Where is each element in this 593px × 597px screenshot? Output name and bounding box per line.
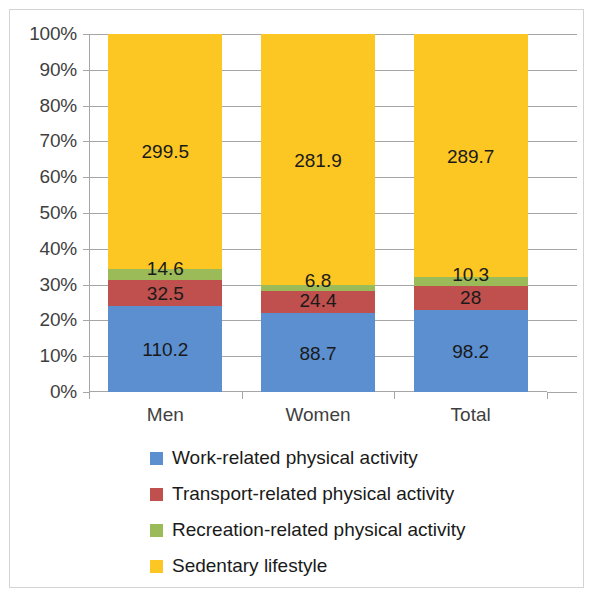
legend-swatch-icon [150, 560, 163, 573]
bar-segment[interactable] [414, 277, 528, 286]
legend-label: Recreation-related physical activity [172, 519, 466, 541]
x-axis-separator [242, 392, 243, 399]
y-axis-label: 40% [40, 238, 77, 260]
plot-wrapper: 100%90%80%70%60%50%40%30%20%10%0%110.232… [10, 10, 585, 430]
y-axis-tick-right [547, 70, 577, 71]
bar-segment[interactable] [108, 306, 222, 392]
y-axis-label: 100% [29, 23, 77, 45]
bar-segment[interactable] [261, 285, 375, 291]
y-axis-tick-right [547, 213, 577, 214]
legend-swatch-icon [150, 452, 163, 465]
bar-segment[interactable] [108, 269, 222, 280]
y-axis-tick [83, 356, 89, 357]
y-axis-label: 70% [40, 130, 77, 152]
bar-men[interactable]: 110.232.514.6299.5 [108, 34, 222, 392]
y-axis-tick [83, 320, 89, 321]
legend-label: Transport-related physical activity [172, 483, 454, 505]
bar-women[interactable]: 88.724.46.8281.9 [261, 34, 375, 392]
y-axis-label: 30% [40, 274, 77, 296]
legend-label: Work-related physical activity [172, 447, 418, 469]
x-axis-separator [89, 392, 90, 399]
bar-segment[interactable] [414, 34, 528, 277]
x-axis-label-women: Women [285, 404, 350, 426]
y-axis-tick [83, 213, 89, 214]
bar-segment[interactable] [414, 286, 528, 310]
y-axis-tick-right [547, 141, 577, 142]
y-axis-label: 20% [40, 309, 77, 331]
y-axis-label: 90% [40, 59, 77, 81]
y-axis-tick [83, 141, 89, 142]
y-axis-tick [83, 249, 89, 250]
y-axis-tick-right [547, 320, 577, 321]
y-axis-tick-right [547, 249, 577, 250]
y-axis-label: 50% [40, 202, 77, 224]
y-axis-tick-right [547, 34, 577, 35]
legend-item[interactable]: Sedentary lifestyle [150, 548, 550, 584]
y-axis-tick-right [547, 285, 577, 286]
legend-label: Sedentary lifestyle [172, 555, 327, 577]
bar-segment[interactable] [261, 291, 375, 313]
y-axis-label: 10% [40, 345, 77, 367]
y-axis-tick-right [547, 177, 577, 178]
plot-area: 100%90%80%70%60%50%40%30%20%10%0%110.232… [89, 34, 547, 392]
x-axis-separator [547, 392, 548, 399]
x-axis-label-total: Total [451, 404, 491, 426]
legend-swatch-icon [150, 488, 163, 501]
bar-segment[interactable] [261, 313, 375, 392]
chart-legend: Work-related physical activityTransport-… [150, 440, 550, 584]
x-axis-separator [394, 392, 395, 399]
y-axis-tick [83, 34, 89, 35]
x-axis-label-men: Men [147, 404, 184, 426]
y-axis-tick [83, 70, 89, 71]
y-axis-label: 80% [40, 95, 77, 117]
legend-swatch-icon [150, 524, 163, 537]
bar-segment[interactable] [261, 34, 375, 285]
y-axis-tick-right [547, 106, 577, 107]
bar-segment[interactable] [108, 34, 222, 269]
y-axis-tick [83, 285, 89, 286]
y-axis-tick-right [547, 392, 577, 393]
y-axis-label: 60% [40, 166, 77, 188]
y-axis-label: 0% [50, 381, 77, 403]
bar-segment[interactable] [414, 310, 528, 392]
chart-frame: 100%90%80%70%60%50%40%30%20%10%0%110.232… [9, 9, 584, 588]
legend-item[interactable]: Recreation-related physical activity [150, 512, 550, 548]
y-axis-tick [83, 106, 89, 107]
y-axis-tick-right [547, 356, 577, 357]
y-axis-tick [83, 177, 89, 178]
legend-item[interactable]: Transport-related physical activity [150, 476, 550, 512]
legend-item[interactable]: Work-related physical activity [150, 440, 550, 476]
bar-segment[interactable] [108, 280, 222, 305]
bar-total[interactable]: 98.22810.3289.7 [414, 34, 528, 392]
